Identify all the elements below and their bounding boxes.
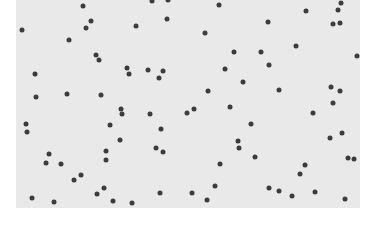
dot [146,68,151,73]
dot [120,112,125,117]
dot [190,191,195,196]
dot [127,72,132,77]
dot [25,130,30,135]
dot [30,196,35,201]
dot [237,146,242,151]
dot [218,162,223,167]
dot [311,111,316,116]
dot [303,163,308,168]
dot [52,200,57,205]
dot [97,58,102,63]
dot [213,184,218,189]
dot [99,93,104,98]
dot [259,50,264,55]
dot [343,197,348,202]
dot [154,146,159,151]
dot [111,199,116,204]
dot [298,172,303,177]
dot [355,54,360,59]
dot [159,127,164,132]
dot [130,201,135,206]
dot [72,178,77,183]
dot [339,1,344,6]
dot [304,9,309,14]
dot [84,26,89,31]
dot [290,194,295,199]
dot [338,21,343,26]
dot [249,122,254,127]
dot [44,161,49,166]
dot [104,158,109,163]
dot [336,8,341,13]
dot [313,190,318,195]
dot [24,122,29,127]
dot [340,131,345,136]
dot [148,112,153,117]
dot [79,173,84,178]
dot-field [16,0,360,208]
dot [134,24,139,29]
dot [232,50,237,55]
dot [89,19,94,24]
dot [108,123,113,128]
dot [253,155,258,160]
dot [346,156,351,161]
dot [223,67,228,72]
dot [267,186,272,191]
dot [329,85,334,90]
dot [277,189,282,194]
dot [236,139,241,144]
dot [95,192,100,197]
dot [165,17,170,22]
dot [158,191,163,196]
dot [331,101,336,106]
dot [125,66,130,71]
dot [185,111,190,116]
dot [102,186,107,191]
dot [217,3,222,8]
dot [352,157,357,162]
dot [203,31,208,36]
dot [206,89,211,94]
dot [157,76,162,81]
dot [33,72,38,77]
dot [192,107,197,112]
dot [277,88,282,93]
dot [228,105,233,110]
dot [267,63,272,68]
dot [34,95,39,100]
dot [338,89,343,94]
dot [20,28,25,33]
dot [266,20,271,25]
dot [328,136,333,141]
dot [47,152,52,157]
dot [59,162,64,167]
dot [65,92,70,97]
dot [241,80,246,85]
dot [205,198,210,203]
dot [161,69,166,74]
dot [104,149,109,154]
dot [161,150,166,155]
dot [67,38,72,43]
dot [294,44,299,49]
dot [81,4,86,9]
dot [118,138,123,143]
dot [331,22,336,27]
